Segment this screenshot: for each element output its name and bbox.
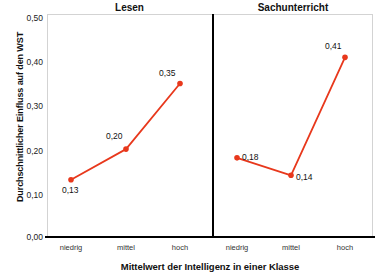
- y-tick-050: 0,50: [15, 14, 43, 23]
- y-tick-040: 0,40: [15, 58, 43, 67]
- data-label-sachunterricht-niedrig: 0,18: [242, 153, 259, 162]
- x-cat-label-right-mittel: mittel: [268, 243, 314, 252]
- x-cat-label-left-niedrig: niedrig: [48, 243, 94, 252]
- x-axis-title: Mittelwert der Intelligenz in einer Klas…: [47, 261, 373, 272]
- x-axis-line: [45, 236, 375, 238]
- panel-divider: [212, 14, 214, 238]
- x-cat-label-right-niedrig: niedrig: [214, 243, 260, 252]
- panel-title-lesen: Lesen: [47, 2, 212, 13]
- data-label-sachunterricht-hoch: 0,41: [325, 42, 342, 51]
- data-label-lesen-mittel: 0,20: [106, 132, 123, 141]
- x-cat-label-right-hoch: hoch: [322, 243, 368, 252]
- chart-figure: Durchschnittlicher Einfluss auf den WST …: [0, 0, 390, 278]
- x-cat-label-left-mittel: mittel: [103, 243, 149, 252]
- x-cat-label-left-hoch: hoch: [157, 243, 203, 252]
- data-label-lesen-niedrig: 0,13: [62, 186, 79, 195]
- y-tick-030: 0,30: [15, 102, 43, 111]
- y-tick-010: 0,10: [15, 191, 43, 200]
- y-axis-tick-labels: 0,50 0,40 0,30 0,20 0,10 0,00: [14, 0, 43, 278]
- data-label-lesen-hoch: 0,35: [159, 69, 176, 78]
- y-tick-000: 0,00: [15, 233, 43, 242]
- data-label-sachunterricht-mittel: 0,14: [296, 173, 313, 182]
- panel-title-sachunterricht: Sachunterricht: [213, 2, 373, 13]
- y-tick-020: 0,20: [15, 147, 43, 156]
